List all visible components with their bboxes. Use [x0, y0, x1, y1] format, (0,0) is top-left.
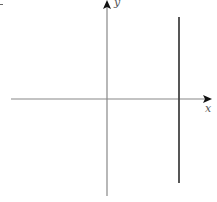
- corner-artifact: [0, 4, 3, 5]
- y-axis-label: y: [114, 0, 120, 8]
- diagram-canvas: [0, 0, 217, 202]
- x-axis-label: x: [205, 103, 211, 114]
